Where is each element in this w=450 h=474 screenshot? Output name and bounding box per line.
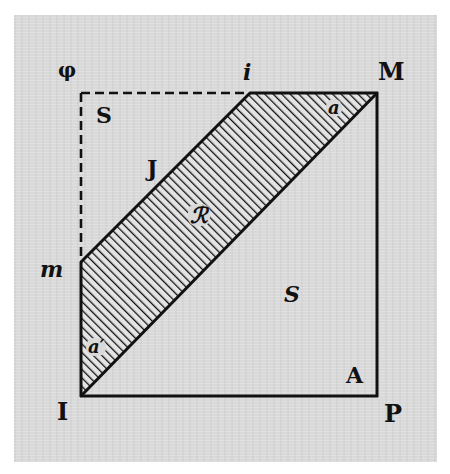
label-a-prime-angle: a′ bbox=[86, 338, 106, 356]
label-M-corner: M bbox=[378, 60, 405, 84]
label-A-region: A bbox=[346, 364, 363, 386]
label-P-corner: P bbox=[384, 402, 402, 426]
label-J-region: J bbox=[147, 157, 157, 179]
label-R-band: ℛ bbox=[188, 204, 210, 226]
label-i-point: i bbox=[243, 61, 251, 83]
label-S-lower: S bbox=[284, 283, 300, 305]
label-phi-corner: φ bbox=[58, 60, 76, 80]
label-S-upper: S bbox=[96, 104, 112, 126]
label-a-angle: a bbox=[326, 99, 342, 117]
label-I-corner: I bbox=[57, 400, 68, 424]
label-m-point: m bbox=[40, 258, 63, 280]
